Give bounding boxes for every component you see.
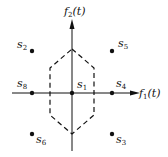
label-s6: s6 bbox=[36, 133, 47, 147]
label-s4: s4 bbox=[116, 77, 127, 91]
point-s6 bbox=[30, 132, 34, 136]
point-s4 bbox=[110, 91, 114, 95]
f2-axis-label: f2(t) bbox=[63, 5, 86, 19]
label-s1: s1 bbox=[77, 78, 87, 92]
point-s8 bbox=[30, 91, 34, 95]
label-s3: s3 bbox=[116, 133, 126, 147]
point-s1 bbox=[70, 91, 74, 95]
point-s5 bbox=[110, 49, 114, 53]
constellation-diagram: f2(t) f1(t) s1 s2 s3 s4 s5 s6 s8 bbox=[0, 0, 168, 157]
label-s8: s8 bbox=[17, 77, 27, 91]
label-s2: s2 bbox=[17, 38, 27, 52]
f1-axis-label: f1(t) bbox=[138, 87, 161, 101]
diagram-svg: f2(t) f1(t) s1 s2 s3 s4 s5 s6 s8 bbox=[0, 0, 168, 157]
point-s2 bbox=[30, 49, 34, 53]
label-s5: s5 bbox=[118, 37, 128, 51]
point-s3 bbox=[110, 132, 114, 136]
f2-arrow-icon bbox=[70, 19, 75, 29]
